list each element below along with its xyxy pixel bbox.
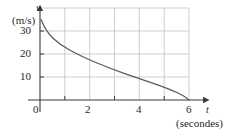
x-tick-label-2: 2: [85, 104, 91, 115]
x-axis: [28, 96, 210, 103]
x-axis-minor-ticks: [65, 96, 164, 100]
x-tick-label-0: 0: [33, 104, 39, 115]
y-tick-label-20: 20: [20, 48, 31, 59]
x-axis-symbol: t: [206, 105, 209, 115]
x-axis-arrowhead: [203, 97, 210, 103]
velocity-curve: [41, 20, 189, 101]
x-tick-label-6: 6: [186, 104, 192, 115]
y-axis-tick-marks: [40, 31, 44, 77]
y-axis: [37, 5, 44, 112]
y-axis-symbol: v: [36, 3, 40, 13]
velocity-time-graph-figure: v (m/s) 30 20 10 0 2 4 6 t (secondes): [0, 0, 230, 134]
y-tick-label-10: 10: [20, 71, 31, 82]
x-tick-label-4: 4: [136, 104, 142, 115]
x-axis-unit-label: (secondes): [176, 118, 223, 129]
y-tick-label-30: 30: [20, 25, 31, 36]
